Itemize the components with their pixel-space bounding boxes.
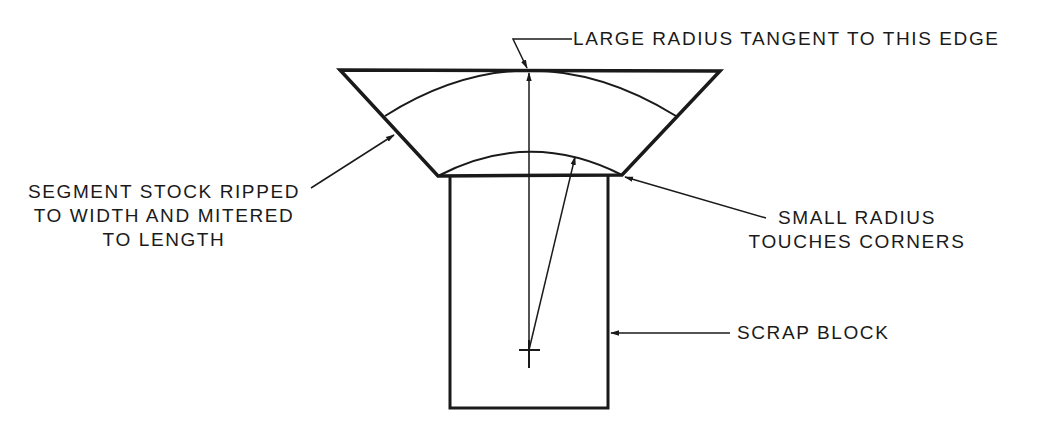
- label-small-radius-line-2: TOUCHES CORNERS: [737, 230, 977, 254]
- label-segment-stock: SEGMENT STOCK RIPPED TO WIDTH AND MITERE…: [16, 180, 312, 252]
- large-radius-leader: [513, 39, 572, 68]
- small-radius-line: [529, 157, 575, 350]
- label-large-radius: LARGE RADIUS TANGENT TO THIS EDGE: [573, 27, 1000, 51]
- label-segment-stock-line-1: SEGMENT STOCK RIPPED: [16, 180, 312, 204]
- label-segment-stock-line-2: TO WIDTH AND MITERED: [16, 204, 312, 228]
- label-scrap-block: SCRAP BLOCK: [737, 321, 889, 345]
- small-radius-arc: [438, 152, 622, 176]
- label-small-radius-line-1: SMALL RADIUS: [737, 206, 977, 230]
- segment-stock-leader: [311, 135, 394, 188]
- large-radius-arc: [385, 71, 676, 117]
- label-small-radius: SMALL RADIUS TOUCHES CORNERS: [737, 206, 977, 254]
- label-segment-stock-line-3: TO LENGTH: [16, 228, 312, 252]
- segment-trapezoid: [340, 70, 720, 176]
